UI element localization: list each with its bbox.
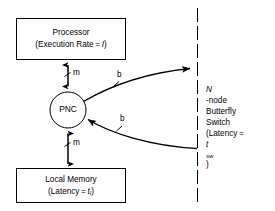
- processor-link-label-text: m: [73, 68, 80, 77]
- inbound-network-label: b: [120, 114, 125, 124]
- switch-latency-line: (Latency = tsw): [206, 128, 274, 170]
- local-memory-latency-line: (Latency = tl): [16, 187, 126, 197]
- switch-node-rest: -node: [206, 95, 274, 106]
- local-memory-latency-prefix: (Latency =: [48, 187, 87, 196]
- processor-title: Processor: [16, 28, 126, 38]
- switch-node-variable: N: [206, 84, 274, 95]
- switch-node-line: N-node: [206, 84, 274, 106]
- switch-switch-line: Switch: [206, 117, 274, 128]
- memory-link-label: m: [73, 138, 80, 148]
- pnc-label-text: PNC: [59, 104, 77, 114]
- switch-latency-subscript: sw: [206, 152, 274, 160]
- memory-link-label-text: m: [73, 138, 80, 147]
- local-memory-box-label: Local Memory (Latency = tl): [16, 175, 126, 196]
- switch-butterfly-line: Butterfly: [206, 106, 274, 117]
- inbound-network-curve: [88, 120, 197, 149]
- switch-latency-suffix: ): [206, 159, 274, 170]
- outbound-network-label-text: b: [117, 70, 122, 79]
- switch-latency-prefix: (Latency =: [206, 128, 274, 139]
- inbound-network-tick: [117, 126, 123, 131]
- processor-rate-suffix: ): [104, 40, 107, 49]
- butterfly-switch-label: N-node Butterfly Switch (Latency = tsw): [206, 84, 274, 170]
- processor-link-label: m: [73, 68, 80, 78]
- outbound-network-label: b: [117, 70, 122, 80]
- diagram-canvas: Processor (Execution Rate = I) Local Mem…: [0, 0, 275, 211]
- outbound-network-curve: [84, 69, 191, 102]
- local-memory-latency-subscript: l: [90, 189, 91, 196]
- processor-rate-line: (Execution Rate = I): [16, 40, 126, 50]
- local-memory-title: Local Memory: [16, 175, 126, 185]
- processor-box-label: Processor (Execution Rate = I): [16, 28, 126, 49]
- inbound-network-label-text: b: [120, 114, 125, 123]
- switch-latency-variable: t: [206, 139, 274, 150]
- processor-rate-prefix: (Execution Rate =: [35, 40, 101, 49]
- local-memory-latency-suffix: ): [91, 187, 94, 196]
- pnc-node-label: PNC: [48, 105, 88, 115]
